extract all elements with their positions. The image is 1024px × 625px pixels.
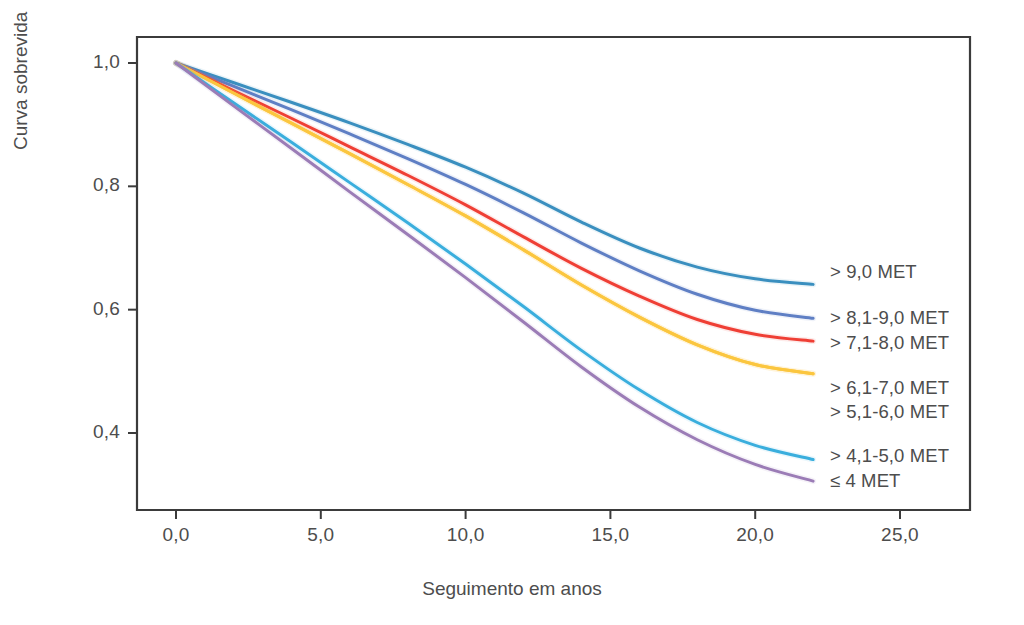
y-tick-label-1: 0,8	[55, 174, 120, 196]
x-tick-label-3: 15,0	[565, 524, 655, 546]
survival-curves	[176, 63, 813, 481]
x-tick-label-4: 20,0	[710, 524, 800, 546]
legend-label-4: > 5,1-6,0 MET	[830, 401, 949, 423]
x-axis-title: Seguimento em anos	[0, 578, 1024, 600]
legend-label-6: ≤ 4 MET	[830, 470, 900, 492]
legend-label-5: > 4,1-5,0 MET	[830, 445, 949, 467]
y-axis-title: Curva sobrevida	[10, 0, 32, 150]
y-tick-label-2: 0,6	[55, 298, 120, 320]
legend-label-0: > 9,0 MET	[830, 261, 917, 283]
survival-curve-figure: Curva sobrevida Seguimento em anos 1,00,…	[0, 0, 1024, 625]
y-tick-label-0: 1,0	[55, 51, 120, 73]
curve-halo-5	[176, 63, 813, 460]
x-tick-label-1: 5,0	[276, 524, 366, 546]
legend-label-1: > 8,1-9,0 MET	[830, 307, 949, 329]
survival-curve-5	[176, 63, 813, 460]
legend-label-2: > 7,1-8,0 MET	[830, 332, 949, 354]
x-tick-label-5: 25,0	[855, 524, 945, 546]
x-tick-label-2: 10,0	[421, 524, 511, 546]
survival-curve-1	[176, 63, 813, 318]
survival-curve-0	[176, 63, 813, 284]
y-axis-title-text: Curva sobrevida	[10, 0, 32, 150]
legend-label-3: > 6,1-7,0 MET	[830, 377, 949, 399]
y-tick-label-3: 0,4	[55, 421, 120, 443]
x-tick-label-0: 0,0	[131, 524, 221, 546]
x-axis-title-text: Seguimento em anos	[422, 578, 602, 599]
